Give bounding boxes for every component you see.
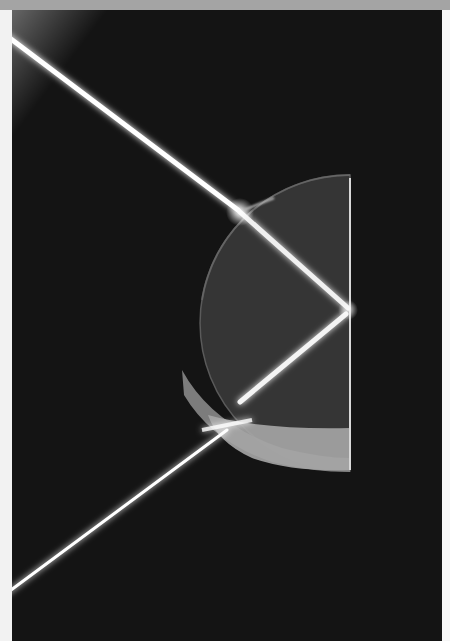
photo-scene: [12, 10, 442, 641]
left-page-margin: [0, 10, 12, 641]
exit-beam: [12, 430, 227, 593]
entry-point-glow: [226, 198, 254, 226]
refraction-photograph: [12, 10, 442, 641]
reflection-point-glow: [338, 300, 358, 320]
right-page-margin: [442, 10, 450, 641]
top-gray-band: [0, 0, 450, 10]
corner-glow: [12, 10, 132, 170]
